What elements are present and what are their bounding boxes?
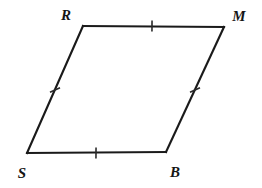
edge-rm (83, 26, 224, 27)
vertex-label-r: R (60, 7, 71, 23)
figure-canvas: RMBS (0, 0, 262, 188)
geometry-figure: RMBS (0, 0, 262, 188)
vertex-label-m: M (231, 8, 246, 24)
vertex-label-b: B (169, 164, 180, 180)
vertex-label-s: S (18, 165, 26, 181)
